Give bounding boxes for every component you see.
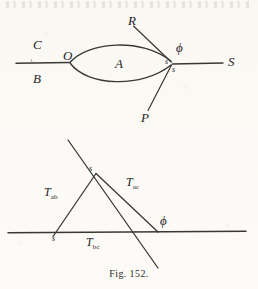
label-c: C	[33, 38, 42, 51]
tick-mark-left-ray	[31, 60, 32, 62]
label-s-ray: S	[228, 55, 235, 68]
label-t-ac-subscript: ac	[133, 183, 140, 191]
label-phi-lower: ϕ	[160, 214, 167, 227]
label-phi-upper: ϕ	[176, 41, 183, 54]
line-horizontal-base	[8, 231, 246, 233]
label-s-lower-junction: s	[172, 66, 175, 74]
lower-diagram-group	[8, 140, 246, 268]
label-r: R	[128, 14, 136, 27]
line-t-ab	[53, 174, 96, 237]
label-s-top-node: s	[89, 165, 92, 173]
figure-caption: Fig. 152.	[0, 268, 258, 279]
figure-152: C B O A R P S ϕ s s Tab Tac Tbc s s ϕ Fi…	[0, 0, 258, 289]
label-a: A	[115, 57, 123, 70]
label-t-ab-subscript: ab	[51, 193, 58, 201]
label-b: B	[33, 72, 41, 85]
label-t-ab: Tab	[44, 186, 58, 201]
label-p: P	[141, 111, 149, 124]
line-bc-to-o	[16, 63, 69, 64]
label-t-ab-main: T	[44, 185, 51, 199]
label-t-bc: Tbc	[86, 236, 100, 251]
label-o: O	[63, 49, 72, 62]
label-t-bc-subscript: bc	[93, 243, 100, 251]
label-t-ac-main: T	[126, 175, 133, 189]
label-s-upper-junction: s	[165, 58, 168, 66]
label-t-ac: Tac	[126, 176, 140, 191]
line-ac-extended	[68, 140, 158, 268]
line-ray-s	[173, 63, 224, 64]
label-s-bottom-node: s	[52, 235, 55, 243]
label-t-bc-main: T	[86, 235, 93, 249]
